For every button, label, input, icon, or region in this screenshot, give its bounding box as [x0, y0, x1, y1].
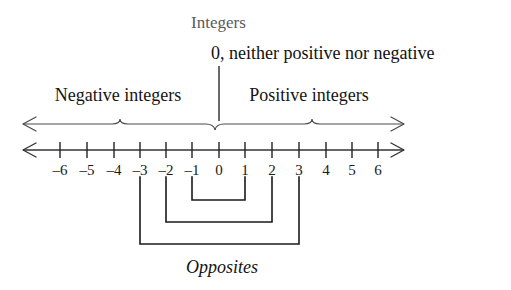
opposites-bracket-3: [140, 177, 299, 244]
tick-label-1: 1: [230, 162, 260, 179]
tick-label-2: 2: [257, 162, 287, 179]
opposites-brackets: [140, 177, 299, 244]
tick-label--1: –1: [177, 162, 207, 179]
tick-label--5: –5: [72, 162, 102, 179]
integers-number-line-diagram: Integers 0, neither positive nor negativ…: [0, 0, 511, 290]
opposites-bracket-1: [192, 177, 245, 200]
region-brace-line: [23, 117, 404, 131]
tick-label-3: 3: [284, 162, 314, 179]
number-line-axis: [23, 143, 404, 157]
tick-label-6: 6: [363, 162, 393, 179]
tick-label--6: –6: [45, 162, 75, 179]
number-line-graphics: [0, 0, 511, 290]
